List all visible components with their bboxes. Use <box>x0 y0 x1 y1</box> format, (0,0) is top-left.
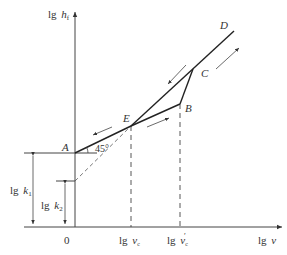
angle-arc <box>87 147 88 153</box>
point-E-label: E <box>122 112 130 124</box>
point-C-label: C <box>201 67 209 79</box>
direction-arrow-up-right-CD <box>216 48 239 69</box>
angle-label: 45° <box>95 143 109 154</box>
direction-arrow-down-left-EA <box>93 127 112 135</box>
x-axis-label: lg v <box>258 234 276 246</box>
hysteresis-diagram: lg hf lg v 0 lg k1 lg k2 45° A E B C D <box>0 0 287 255</box>
k2-label: lg k2 <box>41 199 63 213</box>
origin-label: 0 <box>64 234 70 246</box>
vc-tick-label: lg vc <box>119 234 140 247</box>
curve-E-C-D <box>131 31 234 126</box>
direction-arrow-up-right-EB <box>147 118 169 127</box>
point-B-label: B <box>185 102 192 114</box>
k1-label: lg k1 <box>10 184 32 198</box>
point-A-label: A <box>61 141 69 153</box>
point-D-label: D <box>219 19 228 31</box>
y-axis-label: lg hf <box>48 8 70 22</box>
vc-prime-tick-label: lg vc′ <box>167 232 188 247</box>
direction-arrow-down-left-CE <box>168 65 186 84</box>
